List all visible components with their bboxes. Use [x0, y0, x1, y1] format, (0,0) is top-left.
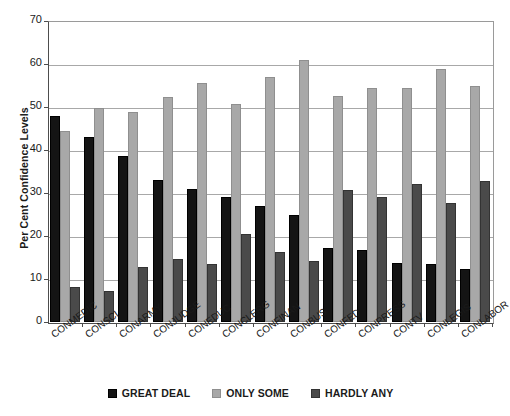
- y-axis-tick-mark: [44, 236, 48, 237]
- chart-legend: GREAT DEALONLY SOMEHARDLY ANY: [0, 387, 501, 399]
- y-axis-tick-mark: [44, 322, 48, 323]
- x-axis-tick-mark: [253, 323, 254, 327]
- y-axis-tick-mark: [44, 150, 48, 151]
- bar: [436, 69, 446, 322]
- x-axis-tick-mark: [321, 323, 322, 327]
- bar: [299, 60, 309, 322]
- legend-item: ONLY SOME: [212, 387, 289, 399]
- y-axis-tick-mark: [44, 279, 48, 280]
- bar: [343, 190, 353, 322]
- bar: [446, 203, 456, 322]
- y-axis-tick-label: 20: [2, 228, 42, 240]
- legend-swatch: [108, 389, 117, 398]
- legend-swatch: [212, 389, 221, 398]
- x-axis-tick-mark: [150, 323, 151, 327]
- y-axis-tick-mark: [44, 64, 48, 65]
- bar: [197, 83, 207, 322]
- x-axis-tick-mark: [82, 323, 83, 327]
- x-axis-tick-mark: [355, 323, 356, 327]
- legend-label: ONLY SOME: [226, 387, 289, 399]
- bar: [118, 156, 128, 322]
- bar: [265, 77, 275, 322]
- y-axis-tick-label: 50: [2, 99, 42, 111]
- bar: [470, 86, 480, 323]
- bar: [231, 104, 241, 322]
- x-axis-tick-mark: [424, 323, 425, 327]
- legend-label: HARDLY ANY: [325, 387, 393, 399]
- legend-swatch: [311, 389, 320, 398]
- y-axis-tick-mark: [44, 21, 48, 22]
- bar: [128, 112, 138, 322]
- x-axis-tick-mark: [458, 323, 459, 327]
- y-axis-tick-mark: [44, 193, 48, 194]
- y-axis-tick-label: 40: [2, 142, 42, 154]
- legend-item: GREAT DEAL: [108, 387, 190, 399]
- x-axis-tick-mark: [219, 323, 220, 327]
- y-axis-tick-mark: [44, 107, 48, 108]
- bar: [367, 88, 377, 322]
- x-axis-tick-mark: [116, 323, 117, 327]
- gridline: [49, 65, 493, 66]
- y-axis-tick-label: 30: [2, 185, 42, 197]
- bar: [60, 131, 70, 322]
- y-axis-tick-label: 0: [2, 314, 42, 326]
- bar: [480, 181, 490, 322]
- bar: [50, 116, 60, 322]
- y-axis-tick-label: 70: [2, 13, 42, 25]
- bar: [163, 97, 173, 322]
- bar: [84, 137, 94, 322]
- x-axis-tick-mark: [390, 323, 391, 327]
- bar: [426, 264, 436, 322]
- bar: [412, 184, 422, 322]
- legend-item: HARDLY ANY: [311, 387, 393, 399]
- x-axis-tick-mark: [287, 323, 288, 327]
- legend-label: GREAT DEAL: [122, 387, 190, 399]
- x-axis-tick-mark: [492, 323, 493, 327]
- bar: [402, 88, 412, 322]
- bar: [333, 96, 343, 322]
- x-axis-tick-mark: [185, 323, 186, 327]
- y-axis-tick-label: 60: [2, 56, 42, 68]
- bar: [94, 108, 104, 322]
- bar: [377, 197, 387, 322]
- y-axis-tick-label: 10: [2, 271, 42, 283]
